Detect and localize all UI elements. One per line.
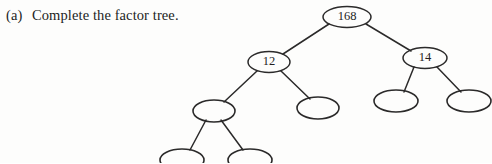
tree-node-blank-l2-b[interactable] <box>297 97 339 119</box>
node-ellipse-l2-b[interactable] <box>297 97 339 119</box>
node-ellipse-l2-d[interactable] <box>447 90 491 112</box>
tree-edge-root-to-l1-right <box>366 24 411 51</box>
tree-edge-layer <box>190 24 461 150</box>
tree-node-blank-l2-c[interactable] <box>374 90 418 112</box>
tree-node-layer: 1681214 <box>160 7 491 164</box>
tree-edge-l1-right-to-l2-d <box>437 67 461 92</box>
tree-edge-l1-left-to-l2-a <box>224 71 257 102</box>
tree-node-168: 168 <box>323 7 371 28</box>
tree-edge-l2-a-to-l3-a <box>190 120 206 150</box>
tree-edge-root-to-l1-left <box>283 24 329 54</box>
node-value-l1-right: 14 <box>419 50 432 64</box>
node-ellipse-l2-a[interactable] <box>193 100 235 122</box>
tree-node-12: 12 <box>248 52 290 73</box>
tree-edge-l1-right-to-l2-c <box>404 67 414 92</box>
worksheet-page: (a) Complete the factor tree. 1681214 <box>0 0 492 163</box>
node-value-l1-left: 12 <box>263 54 276 68</box>
tree-edge-l1-left-to-l2-b <box>281 71 310 99</box>
tree-node-blank-l3-b[interactable] <box>228 149 272 163</box>
node-value-root: 168 <box>338 9 357 23</box>
node-ellipse-l3-a[interactable] <box>160 149 204 163</box>
tree-node-blank-l3-a[interactable] <box>160 149 204 163</box>
tree-node-blank-l2-d[interactable] <box>447 90 491 112</box>
tree-node-blank-l2-a[interactable] <box>193 100 235 122</box>
node-ellipse-l3-b[interactable] <box>228 149 272 163</box>
factor-tree-diagram: 1681214 <box>0 0 492 163</box>
tree-node-14: 14 <box>403 48 447 69</box>
tree-edge-l2-a-to-l3-b <box>221 120 243 150</box>
node-ellipse-l2-c[interactable] <box>374 90 418 112</box>
